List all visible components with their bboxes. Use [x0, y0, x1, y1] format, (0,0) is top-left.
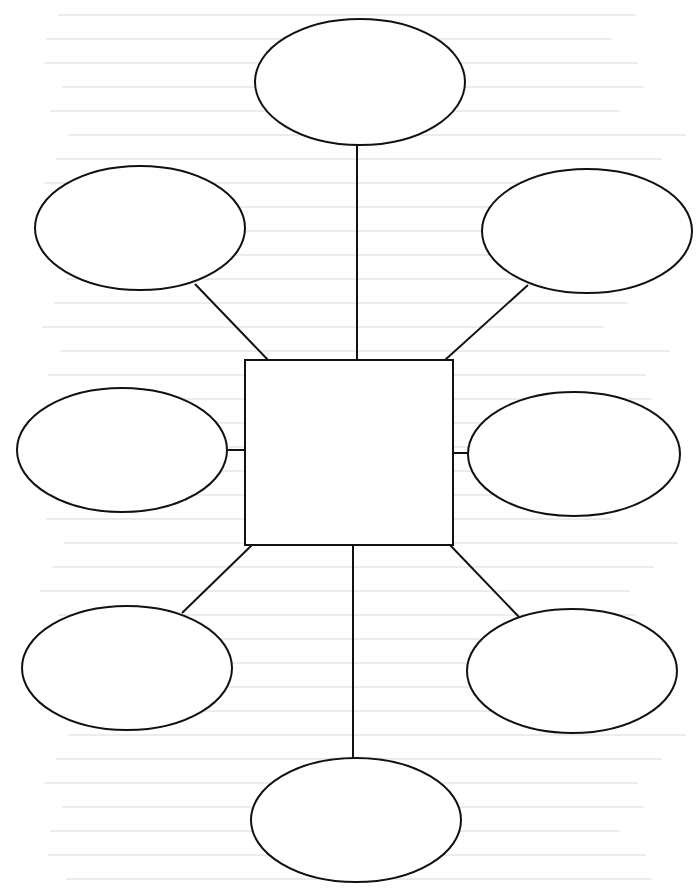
connector-upper-right	[445, 285, 528, 360]
node-label-bottom	[261, 768, 451, 872]
node-label-top	[265, 29, 455, 135]
node-label-upper-right	[492, 179, 682, 283]
node-label-upper-left	[45, 176, 235, 280]
node-label-middle-right	[478, 402, 670, 506]
center-box-label	[253, 368, 445, 537]
node-label-middle-left	[27, 398, 217, 502]
node-label-lower-right	[477, 619, 667, 723]
connector-lower-right	[450, 545, 519, 617]
connector-upper-left	[195, 284, 268, 360]
connector-lower-left	[182, 545, 252, 613]
node-label-lower-left	[32, 616, 222, 720]
